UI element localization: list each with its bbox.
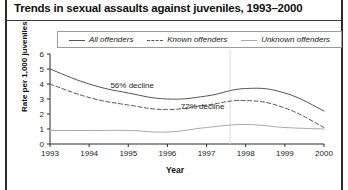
chart-figure: Trends in sexual assaults against juveni… — [0, 0, 348, 190]
legend-item-unknown-offenders[interactable]: Unknown offenders — [241, 35, 330, 44]
svg-text:1994: 1994 — [80, 149, 98, 158]
legend-item-all-offenders[interactable]: All offenders — [69, 35, 133, 44]
svg-text:2: 2 — [40, 110, 45, 119]
legend-item-known-offenders[interactable]: Known offenders — [147, 35, 227, 44]
plot-area: Rate per 1,000 juveniles 012345619931994… — [12, 50, 338, 168]
legend-label-all-offenders: All offenders — [89, 35, 133, 44]
svg-text:6: 6 — [40, 50, 45, 59]
svg-text:1996: 1996 — [159, 149, 177, 158]
svg-text:2000: 2000 — [315, 149, 333, 158]
svg-text:1993: 1993 — [41, 149, 59, 158]
svg-text:0: 0 — [40, 140, 45, 149]
chart-title: Trends in sexual assaults against juveni… — [14, 2, 336, 14]
chart-legend: All offenders Known offenders Unknown of… — [57, 31, 342, 48]
legend-label-unknown-offenders: Unknown offenders — [261, 35, 330, 44]
right-edge-rule — [341, 0, 343, 190]
chart-annotation: 72% decline — [181, 102, 225, 111]
svg-text:4: 4 — [40, 80, 45, 89]
legend-label-known-offenders: Known offenders — [167, 35, 227, 44]
title-divider — [7, 20, 341, 21]
x-axis-label: Year — [12, 165, 338, 175]
chart-annotation: 56% decline — [110, 81, 154, 90]
svg-text:3: 3 — [40, 95, 45, 104]
svg-text:1998: 1998 — [237, 149, 255, 158]
left-edge-rule — [5, 0, 7, 190]
svg-text:1997: 1997 — [198, 149, 216, 158]
chart-plot-svg: 0123456199319941995199619971998199920005… — [12, 50, 338, 164]
svg-text:1999: 1999 — [276, 149, 294, 158]
svg-text:5: 5 — [40, 65, 45, 74]
series-line-unknown-offenders — [50, 125, 324, 133]
svg-text:1995: 1995 — [119, 149, 137, 158]
svg-text:1: 1 — [40, 125, 45, 134]
